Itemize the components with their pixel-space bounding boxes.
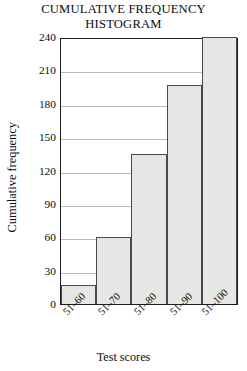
bar-slot <box>167 39 202 304</box>
y-axis-tick-60: 60 <box>45 233 56 244</box>
bar-51–100 <box>202 37 237 304</box>
y-axis-tick-180: 180 <box>39 99 56 110</box>
bar-slot <box>202 39 237 304</box>
y-axis-tick-120: 120 <box>39 166 56 177</box>
bar-series <box>61 39 237 304</box>
y-axis-tick-0: 0 <box>50 299 56 310</box>
plot-area <box>60 38 238 305</box>
y-axis-tick-30: 30 <box>45 266 56 277</box>
bar-slot <box>61 39 96 304</box>
x-tick-slot: 51–90 <box>167 305 203 351</box>
y-axis-title: Cumulative frequency <box>6 102 18 252</box>
bar-slot <box>96 39 131 304</box>
bar-51–90 <box>167 85 202 304</box>
x-axis-tick-labels: 51–6051–7051–8051–9051–100 <box>60 305 238 351</box>
x-axis-title: Test scores <box>0 351 247 364</box>
x-tick-slot: 51–100 <box>202 305 238 351</box>
x-tick-slot: 51–70 <box>96 305 132 351</box>
x-tick-slot: 51–80 <box>131 305 167 351</box>
y-axis-tick-90: 90 <box>45 199 56 210</box>
bar-slot <box>131 39 166 304</box>
bar-51–80 <box>131 154 166 304</box>
y-axis-tick-210: 210 <box>39 66 56 77</box>
y-axis-tick-240: 240 <box>39 32 56 43</box>
x-tick-slot: 51–60 <box>60 305 96 351</box>
cumulative-frequency-histogram-figure: CUMULATIVE FREQUENCY HISTOGRAM 030609012… <box>0 0 247 371</box>
y-axis-tick-150: 150 <box>39 132 56 143</box>
